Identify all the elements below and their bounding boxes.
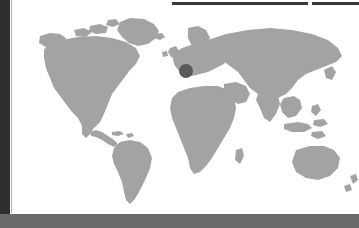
landmass-southeast-asia xyxy=(280,96,302,118)
landmass-australia xyxy=(292,146,340,180)
landmass-arctic-islands xyxy=(74,19,120,37)
world-map[interactable] xyxy=(12,0,359,214)
location-marker[interactable] xyxy=(179,64,193,78)
bottom-status-bar[interactable] xyxy=(0,214,359,228)
map-panel[interactable] xyxy=(12,0,359,214)
left-window-rail xyxy=(0,0,10,213)
landmass-indonesia xyxy=(284,119,328,139)
landmass-africa xyxy=(170,86,236,174)
landmass-india xyxy=(256,92,280,122)
landmass-south-america xyxy=(112,140,152,204)
toolbar-strip-secondary[interactable] xyxy=(312,2,359,5)
left-rail-foot xyxy=(0,205,10,214)
landmass-north-america xyxy=(44,36,140,138)
landmass-japan-philippines xyxy=(311,66,336,116)
landmass-madagascar xyxy=(235,148,244,164)
landmass-caribbean xyxy=(112,131,134,138)
toolbar-strip-primary[interactable] xyxy=(172,2,308,5)
app-screenshot xyxy=(0,0,359,228)
landmass-british-isles xyxy=(162,46,179,58)
landmass-iceland xyxy=(154,33,165,40)
landmass-new-zealand xyxy=(344,174,358,192)
